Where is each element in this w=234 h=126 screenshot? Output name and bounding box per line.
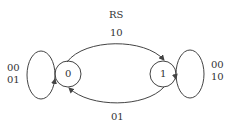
self-loop-0-label-line1: 00 <box>7 62 20 74</box>
state-1-label: 1 <box>160 68 166 80</box>
diagram-title: RS <box>109 9 123 21</box>
transition-0-to-1 <box>67 44 164 62</box>
self-loop-1-label-line2: 10 <box>211 71 224 83</box>
self-loop-1-label-line1: 00 <box>211 59 224 71</box>
self-loop-0-label-line2: 01 <box>7 74 20 86</box>
transition-1-to-0 <box>69 87 164 103</box>
self-loop-1 <box>176 50 204 98</box>
transition-label-1-to-0: 01 <box>111 111 124 123</box>
transition-label-0-to-1: 10 <box>110 27 123 39</box>
self-loop-0 <box>27 51 55 99</box>
state-0-label: 0 <box>65 68 71 80</box>
